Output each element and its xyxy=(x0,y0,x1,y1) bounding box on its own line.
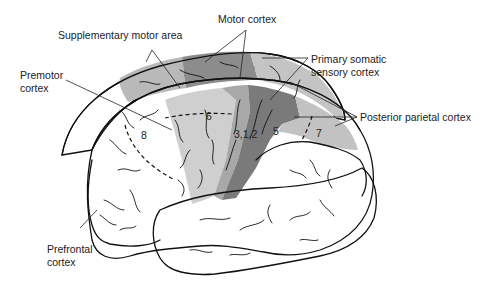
supplementary-motor-area-region xyxy=(119,57,186,102)
area-8-number: 8 xyxy=(141,129,147,141)
label-premotor-line1: Premotor xyxy=(20,69,63,81)
label-prefrontal-line1: Prefrontal xyxy=(47,243,93,255)
area-312-number: 3,1,2 xyxy=(234,128,258,140)
label-primary-somatic-line1: Primary somatic xyxy=(311,53,386,65)
label-primary-somatic-line2: sensory cortex xyxy=(311,66,379,78)
area-5-number: 5 xyxy=(273,125,279,137)
frontal-pole xyxy=(88,160,160,246)
label-prefrontal-line2: cortex xyxy=(47,256,76,268)
motor-cortex-medial-region xyxy=(182,52,258,88)
area-8-boundary xyxy=(125,125,175,180)
label-premotor-line2: cortex xyxy=(20,82,49,94)
area-7-number: 7 xyxy=(316,127,322,139)
label-supplementary-motor-area: Supplementary motor area xyxy=(58,29,182,41)
area-6-number: 6 xyxy=(206,110,212,122)
temporal-lobe xyxy=(153,168,376,274)
label-motor-cortex: Motor cortex xyxy=(218,13,276,25)
label-posterior-parietal: Posterior parietal cortex xyxy=(360,111,471,123)
